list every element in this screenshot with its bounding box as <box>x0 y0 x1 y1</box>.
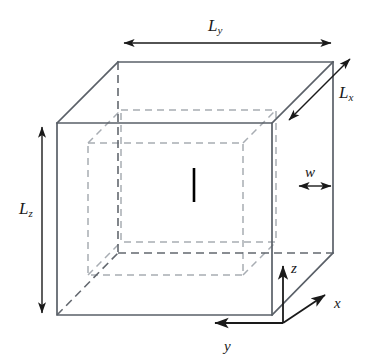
label-length-y: Ly <box>208 17 222 34</box>
label-axis-y: y <box>224 339 231 354</box>
label-length-z: Lz <box>19 200 33 217</box>
label-length-z-subscript: z <box>28 207 32 219</box>
inner-edge-bl <box>88 242 121 275</box>
outer-edge-top-right-diagonal <box>272 62 333 123</box>
box-diagram-canvas <box>0 0 372 361</box>
inner-back-face <box>121 110 276 242</box>
inner-edge-tr <box>243 110 276 143</box>
inner-dashed-box <box>88 110 276 275</box>
label-length-x-subscript: x <box>348 91 353 103</box>
label-length-y-subscript: y <box>217 24 222 36</box>
label-axis-x: x <box>334 296 341 311</box>
label-length-x: Lx <box>339 84 353 101</box>
outer-edge-top-left-diagonal <box>57 62 118 123</box>
box-diagram-figure: Ly Lx Lz w z x y <box>0 0 372 361</box>
inner-edge-tl <box>88 110 121 143</box>
label-wall-thickness: w <box>305 165 315 180</box>
inner-front-face <box>88 143 243 275</box>
label-axis-z: z <box>291 261 297 276</box>
axis-arrow-x <box>283 295 325 323</box>
inner-edge-br <box>243 242 276 275</box>
hidden-edge-bottom-left-diagonal <box>57 253 118 315</box>
outer-edge-bottom-right-diagonal <box>272 253 333 315</box>
outer-front-face <box>57 123 272 315</box>
